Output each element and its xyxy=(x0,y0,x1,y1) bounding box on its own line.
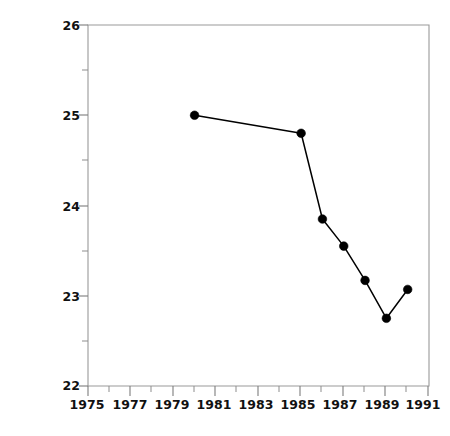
data-point xyxy=(382,314,391,323)
data-point xyxy=(190,111,199,120)
plot-area xyxy=(0,0,450,436)
data-point xyxy=(361,276,370,285)
series-line-reading-test-score xyxy=(195,115,408,318)
reading-test-score-line-chart: Reading test score 26 25 24 23 22 1975 1… xyxy=(0,0,450,436)
data-point xyxy=(339,242,348,251)
data-point xyxy=(318,215,327,224)
series-markers xyxy=(190,111,412,323)
data-point xyxy=(297,129,306,138)
data-point xyxy=(403,285,412,294)
y-axis-ticks xyxy=(79,25,88,386)
x-axis-ticks xyxy=(88,386,428,396)
axis-frame xyxy=(88,25,429,386)
